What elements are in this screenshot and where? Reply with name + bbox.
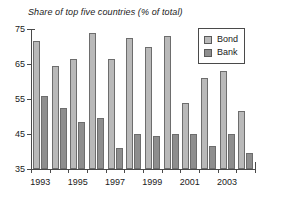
bar-bond-1998 <box>126 38 133 169</box>
y-tick-label-75: 75 <box>15 24 25 34</box>
legend-swatch-bank-icon <box>204 49 212 57</box>
chart-figure: Share of top five countries (% of total)… <box>0 0 283 201</box>
bar-bank-1995 <box>78 122 85 169</box>
bar-bond-1994 <box>52 66 59 169</box>
bar-bank-1999 <box>153 136 160 169</box>
bar-bond-2003 <box>220 71 227 169</box>
x-tick-label-1993: 1993 <box>30 177 50 187</box>
y-tick-label-65: 65 <box>15 59 25 69</box>
x-tick-2003 <box>218 169 219 173</box>
x-tick-1999 <box>143 169 144 173</box>
x-tick-label-1999: 1999 <box>142 177 162 187</box>
chart-legend: BondBank <box>198 28 245 64</box>
x-tick-2002 <box>199 169 200 173</box>
bar-bank-2003 <box>228 134 235 169</box>
bar-bond-2004 <box>238 111 245 169</box>
x-tick-1997 <box>106 169 107 173</box>
x-tick-label-2003: 2003 <box>217 177 237 187</box>
bar-bank-1994 <box>60 108 67 169</box>
bar-bank-1996 <box>97 118 104 169</box>
bar-bank-1993 <box>41 96 48 170</box>
legend-swatch-bond-icon <box>204 36 212 44</box>
legend-item-bank[interactable]: Bank <box>204 46 238 59</box>
y-tick-label-45: 45 <box>15 129 25 139</box>
bar-bond-2001 <box>182 103 189 170</box>
x-tick-1995 <box>68 169 69 173</box>
bar-bond-1993 <box>33 41 40 169</box>
y-tick-65 <box>27 64 31 65</box>
bar-bond-1996 <box>89 33 96 170</box>
x-tick-label-2001: 2001 <box>180 177 200 187</box>
y-tick-label-55: 55 <box>15 94 25 104</box>
legend-item-bond[interactable]: Bond <box>204 33 238 46</box>
x-tick-2004 <box>236 169 237 173</box>
bar-bank-2002 <box>209 146 216 169</box>
x-tick-2000 <box>162 169 163 173</box>
y-tick-label-35: 35 <box>15 164 25 174</box>
y-tick-75 <box>27 29 31 30</box>
legend-label: Bond <box>217 35 238 44</box>
x-tick-1993 <box>31 169 32 173</box>
x-tick-2001 <box>180 169 181 173</box>
y-tick-55 <box>27 99 31 100</box>
bar-bank-2004 <box>246 153 253 169</box>
bar-bond-1999 <box>145 47 152 170</box>
x-tick-label-1997: 1997 <box>105 177 125 187</box>
x-tick-label-1995: 1995 <box>68 177 88 187</box>
x-tick-1996 <box>87 169 88 173</box>
bar-bond-1995 <box>70 59 77 169</box>
y-tick-45 <box>27 134 31 135</box>
bar-bank-1998 <box>134 134 141 169</box>
chart-title: Share of top five countries (% of total) <box>28 7 183 17</box>
bar-bond-2002 <box>201 78 208 169</box>
bar-bond-1997 <box>108 59 115 169</box>
x-tick-1994 <box>50 169 51 173</box>
y-axis-top-cap <box>31 29 35 30</box>
x-tick-1998 <box>124 169 125 173</box>
x-tick-end <box>255 169 256 173</box>
bar-bank-2000 <box>172 134 179 169</box>
bar-bank-1997 <box>116 148 123 169</box>
bar-bond-2000 <box>164 36 171 169</box>
bar-bank-2001 <box>190 134 197 169</box>
legend-label: Bank <box>217 48 238 57</box>
